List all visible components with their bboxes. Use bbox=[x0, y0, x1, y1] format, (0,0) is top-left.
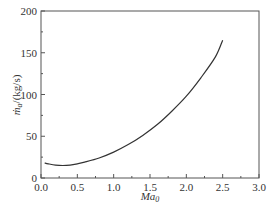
plot-frame bbox=[41, 11, 259, 178]
x-tick-label: 1.0 bbox=[107, 181, 121, 193]
y-tick-label: 0 bbox=[32, 172, 38, 184]
y-tick-label: 150 bbox=[21, 47, 38, 59]
x-tick-label: 2.0 bbox=[179, 181, 193, 193]
y-tick-label: 100 bbox=[21, 89, 38, 101]
y-tick-label: 200 bbox=[21, 5, 38, 17]
data-line bbox=[45, 40, 223, 165]
x-tick-label: 0.5 bbox=[70, 181, 84, 193]
x-tick-label: 3.0 bbox=[252, 181, 266, 193]
x-tick-label: 2.5 bbox=[216, 181, 230, 193]
y-tick-label: 50 bbox=[26, 130, 38, 142]
chart: 0.00.51.01.52.02.53.0050100150200 Ma0 ṁa… bbox=[0, 0, 271, 214]
axis-ticks bbox=[41, 11, 259, 178]
y-axis-label: ṁa/(kg/s) bbox=[10, 74, 24, 115]
